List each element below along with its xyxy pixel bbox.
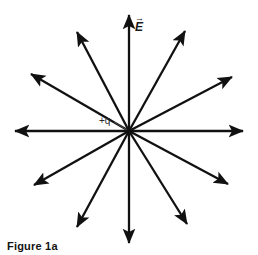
field-label-text: E [135,20,143,34]
field-ray-302 [129,131,187,224]
field-vector-label: → E [135,16,144,33]
figure-caption: Figure 1a [7,240,58,252]
figure-container: → E +q Figure 1a [0,0,258,255]
field-ray-332 [129,131,228,184]
electric-field-diagram [0,0,258,255]
field-ray-group [15,15,243,243]
point-charge-label: +q [99,116,110,126]
